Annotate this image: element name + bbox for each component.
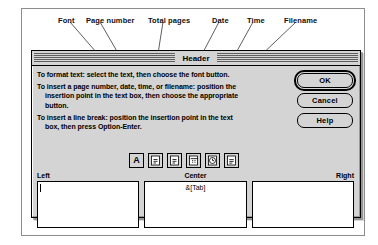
font-icon: A xyxy=(133,156,140,165)
instruction-line-4: To insert a line break: position the ins… xyxy=(37,113,289,122)
center-header-value: &[Tab] xyxy=(145,182,245,192)
field-label-right: Right xyxy=(252,171,354,180)
field-group-center: Center&[Tab] xyxy=(144,171,246,228)
date-icon xyxy=(188,155,199,166)
screenshot-root: FontPage numberTotal pagesDateTimeFilena… xyxy=(0,0,378,245)
callout-label-2: Total pages xyxy=(148,16,190,25)
field-label-left: Left xyxy=(37,171,139,180)
center-header-input[interactable]: &[Tab] xyxy=(144,181,246,228)
left-header-value xyxy=(38,182,138,183)
filename-icon xyxy=(226,155,237,166)
callout-label-5: Filename xyxy=(284,16,317,25)
total-pages-icon xyxy=(169,155,180,166)
time-icon xyxy=(207,155,218,166)
time-icon-button[interactable] xyxy=(205,153,220,168)
ok-button[interactable]: OK xyxy=(297,73,353,88)
ok-default-ring: OK xyxy=(294,70,356,91)
instruction-line-0: To format text: select the text, then ch… xyxy=(37,70,289,79)
total-pages-icon-button[interactable] xyxy=(167,153,182,168)
field-group-right: Right xyxy=(252,171,354,228)
callout-label-3: Date xyxy=(212,16,229,25)
header-field-row: LeftCenter&[Tab]Right xyxy=(37,171,354,228)
instructions-text: To format text: select the text, then ch… xyxy=(37,70,289,131)
help-button[interactable]: Help xyxy=(297,113,353,128)
date-icon-button[interactable] xyxy=(186,153,201,168)
dialog-button-column: OK Cancel Help xyxy=(297,70,353,133)
cancel-button[interactable]: Cancel xyxy=(297,93,353,108)
field-group-left: Left xyxy=(37,171,139,228)
callout-label-1: Page number xyxy=(86,16,135,25)
instruction-line-3: button. xyxy=(37,101,289,110)
field-label-center: Center xyxy=(144,171,246,180)
left-header-input[interactable] xyxy=(37,181,139,228)
header-dialog: Header To format text: select the text, … xyxy=(31,50,361,218)
text-caret xyxy=(40,184,41,192)
insert-icon-button-row: A xyxy=(129,153,239,168)
page-number-icon xyxy=(150,155,161,166)
dialog-title: Header xyxy=(175,53,216,64)
instruction-line-2: insertion point in the text box, then ch… xyxy=(37,91,289,100)
font-icon-button[interactable]: A xyxy=(129,153,144,168)
callout-label-0: Font xyxy=(58,16,75,25)
instruction-line-5: box, then press Option-Enter. xyxy=(37,122,289,131)
instruction-line-1: To insert a page number, date, time, or … xyxy=(37,82,289,91)
right-header-input[interactable] xyxy=(252,181,354,228)
dialog-title-bar[interactable]: Header xyxy=(32,51,360,66)
page-number-icon-button[interactable] xyxy=(148,153,163,168)
dialog-body: To format text: select the text, then ch… xyxy=(32,66,360,217)
callout-label-4: Time xyxy=(247,16,265,25)
right-header-value xyxy=(253,182,353,183)
filename-icon-button[interactable] xyxy=(224,153,239,168)
